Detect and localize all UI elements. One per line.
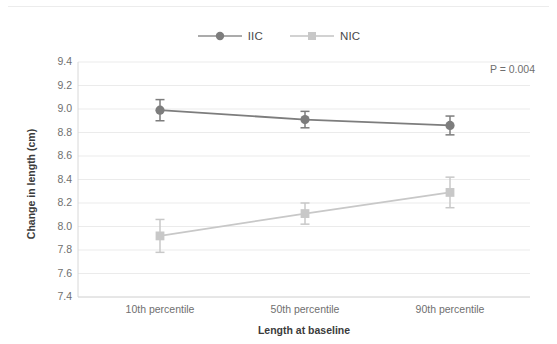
- data-point-nic[interactable]: [156, 232, 165, 241]
- data-point-iic[interactable]: [445, 121, 454, 130]
- chart-container: IIC NIC P = 0.004 Change in length (cm) …: [0, 0, 557, 344]
- data-point-iic[interactable]: [300, 115, 309, 124]
- data-point-nic[interactable]: [446, 188, 455, 197]
- data-point-iic[interactable]: [155, 106, 164, 115]
- plot-area: [0, 0, 557, 344]
- data-point-nic[interactable]: [301, 209, 310, 218]
